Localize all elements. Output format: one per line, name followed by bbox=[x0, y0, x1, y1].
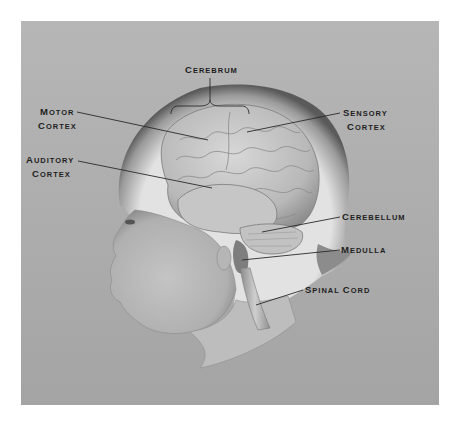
label-cerebrum: CEREBRUM bbox=[185, 64, 238, 75]
label-medulla: MEDULLA bbox=[341, 244, 386, 255]
eye bbox=[125, 220, 135, 225]
label-sensory-cortex: SENSORY bbox=[343, 107, 388, 118]
label-motor-cortex-line2: CORTEX bbox=[38, 120, 77, 131]
ear bbox=[217, 246, 231, 270]
label-cerebellum: CEREBELLUM bbox=[342, 211, 406, 222]
label-spinal-cord: SPINAL CORD bbox=[305, 284, 370, 295]
label-auditory-cortex: AUDITORY bbox=[26, 154, 74, 165]
label-motor-cortex: MOTOR bbox=[40, 106, 74, 117]
label-auditory-cortex-line2: CORTEX bbox=[32, 168, 71, 179]
label-sensory-cortex-line2: CORTEX bbox=[347, 121, 386, 132]
brain-anatomy-diagram: CEREBRUM MOTOR CORTEX SENSORY CORTEX AUD… bbox=[0, 0, 457, 422]
